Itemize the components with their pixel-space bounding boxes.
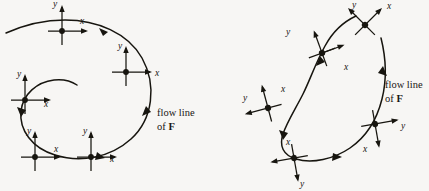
- left-frame-1-y-label: y: [52, 0, 58, 9]
- right-flow-line-label-of: of: [385, 93, 396, 104]
- left-frame-1-y-arrowhead: [59, 5, 64, 12]
- left-frame-5: x y: [77, 126, 117, 171]
- right-frame-5: x y: [359, 106, 406, 154]
- left-frame-4-y-label: y: [26, 126, 32, 136]
- right-frame-1-y-axis: [349, 9, 374, 34]
- right-frame-4-x-label: x: [285, 137, 291, 147]
- left-panel: x y x y: [6, 0, 195, 171]
- left-frame-4-origin-dot: [32, 154, 38, 160]
- right-frame-1-x-axis: [355, 9, 380, 34]
- right-frame-3: x y: [239, 81, 286, 128]
- left-frame-1-x-arrowhead: [81, 28, 88, 33]
- left-frame-4-y-arrowhead: [32, 131, 37, 138]
- right-frame-3-origin-dot: [264, 104, 272, 112]
- left-frame-2-y-arrowhead: [123, 46, 128, 53]
- left-frame-2-x-label: x: [154, 68, 160, 78]
- right-flow-line-label-field: F: [396, 93, 402, 104]
- right-flow-line-label-line2: of F: [385, 93, 403, 104]
- right-frame-5-x-arrowhead: [375, 140, 382, 148]
- right-frame-2-x-label: x: [343, 62, 349, 72]
- left-frame-2: x y: [112, 41, 160, 86]
- left-frame-3-x-label: x: [43, 99, 49, 109]
- left-flow-arrowhead-top: [99, 28, 108, 36]
- left-flow-line-curve: [6, 20, 151, 159]
- left-flow-line-label-line2: of F: [157, 121, 175, 132]
- right-frame-4-y-axis: [292, 144, 298, 179]
- right-frame-4-x-arrowhead: [270, 158, 278, 165]
- right-frame-4-origin-dot: [290, 154, 297, 161]
- right-frame-2-x-arrowhead: [337, 42, 345, 49]
- left-frame-2-origin-dot: [123, 69, 129, 75]
- right-panel: x y x y: [239, 0, 423, 189]
- right-frame-5-y-axis: [361, 120, 396, 126]
- right-frame-4: x y: [268, 137, 312, 189]
- left-flow-arrowhead-bottom: [95, 152, 105, 160]
- left-flow-line-label-line1: flow line: [157, 107, 195, 118]
- right-frame-3-y-axis: [247, 104, 282, 113]
- right-frame-5-origin-dot: [371, 120, 378, 127]
- left-frame-5-origin-dot: [88, 154, 94, 160]
- right-frame-5-y-arrowhead: [391, 117, 399, 124]
- right-frame-4-y-label: y: [299, 179, 305, 189]
- right-frame-3-y-label: y: [242, 93, 248, 103]
- right-frame-2-y-arrowhead: [311, 30, 318, 38]
- right-flow-line-curve: [282, 16, 386, 161]
- right-frame-3-x-label: x: [280, 84, 286, 94]
- left-frame-2-y-label: y: [117, 41, 123, 51]
- left-flow-line-label-of: of: [157, 121, 168, 132]
- right-flow-line-label-line1: flow line: [385, 79, 423, 90]
- left-frame-5-y-label: y: [82, 126, 88, 136]
- left-frame-5-y-arrowhead: [88, 131, 93, 138]
- right-frame-3-x-axis: [262, 87, 271, 122]
- right-frame-2-y-label: y: [285, 27, 291, 37]
- right-frame-5-y-label: y: [400, 121, 406, 131]
- right-frame-3-x-arrowhead: [259, 84, 266, 92]
- right-frame-3-y-arrowhead: [244, 110, 252, 117]
- figure-root: x y x y: [0, 0, 429, 191]
- left-frame-4-x-label: x: [53, 144, 59, 154]
- left-flow-line-label-field: F: [168, 121, 174, 132]
- left-frame-5-x-label: x: [109, 154, 115, 164]
- left-frame-1-origin-dot: [59, 28, 65, 34]
- left-frame-1-x-label: x: [79, 16, 85, 26]
- left-frame-3-origin-dot: [22, 97, 28, 103]
- right-frame-5-x-label: x: [362, 144, 368, 154]
- left-frame-1: x y: [48, 0, 88, 45]
- right-frame-1-y-label: y: [351, 0, 357, 10]
- right-frame-1-x-label: x: [386, 1, 392, 11]
- vector-field-frames-figure: x y x y: [0, 0, 429, 191]
- left-frame-3-y-arrowhead: [22, 74, 27, 81]
- left-frame-3-y-label: y: [16, 69, 22, 79]
